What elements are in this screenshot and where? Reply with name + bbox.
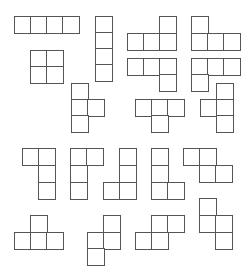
shape-cell	[151, 165, 169, 183]
shape-cell	[223, 58, 241, 76]
shape-cell	[95, 64, 113, 82]
shape-cell	[71, 115, 89, 133]
shape-cell	[119, 182, 137, 200]
shape-cell	[119, 165, 137, 183]
shape-cell	[199, 148, 217, 166]
shape-cell	[167, 215, 185, 233]
tetromino-diagram	[0, 0, 252, 277]
shape-cell	[215, 215, 233, 233]
shape-cell	[103, 232, 121, 250]
shape-cell	[159, 33, 177, 51]
shape-cell	[38, 165, 56, 183]
shape-cell	[87, 248, 105, 266]
shape-cell	[215, 165, 233, 183]
shape-cell	[159, 74, 177, 92]
shape-cell	[46, 232, 64, 250]
shape-cell	[191, 16, 209, 34]
shape-cell	[223, 33, 241, 51]
shape-cell	[38, 148, 56, 166]
shape-cell	[191, 74, 209, 92]
shape-cell	[30, 215, 48, 233]
shape-cell	[167, 182, 185, 200]
shape-cell	[119, 148, 137, 166]
shape-cell	[167, 99, 185, 117]
shape-cell	[70, 165, 88, 183]
shape-cell	[46, 66, 64, 84]
shape-cell	[103, 215, 121, 233]
shape-cell	[199, 198, 217, 216]
shape-cell	[151, 232, 169, 250]
shape-cell	[86, 148, 104, 166]
shape-cell	[70, 182, 88, 200]
shape-cell	[87, 99, 105, 117]
shape-cell	[215, 232, 233, 250]
shape-cell	[62, 16, 80, 34]
shape-cell	[159, 16, 177, 34]
shape-cell	[216, 115, 234, 133]
shape-cell	[151, 115, 169, 133]
shape-cell	[151, 148, 169, 166]
shape-cell	[38, 182, 56, 200]
